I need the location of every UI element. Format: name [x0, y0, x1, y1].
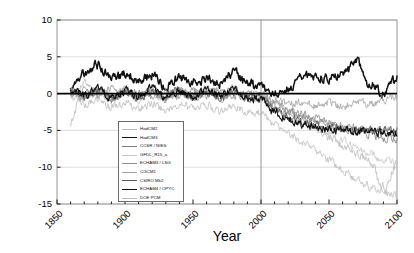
x-axis-title: Year: [57, 228, 397, 244]
legend-swatch: [122, 198, 137, 199]
legend-swatch: [122, 137, 137, 138]
legend-label: ECHAM3 / LSG: [140, 161, 171, 165]
y-tick-label: 5: [26, 51, 52, 62]
y-tick-label: -15: [26, 198, 52, 209]
y-tick-label: -10: [26, 161, 52, 172]
legend-label: HadCM2: [140, 127, 157, 131]
figure-atlantic-circulation: Change in Atlantic Circulation [106m3/s]…: [0, 0, 414, 253]
legend-swatch: [122, 155, 137, 156]
legend-label: CSIRO Mk2: [140, 179, 163, 183]
legend-item: ECHAM4 / OPYC: [121, 185, 181, 194]
legend-item: HadCM3: [121, 134, 181, 143]
legend-swatch: [122, 163, 137, 164]
legend-swatch: [122, 172, 137, 173]
y-tick-label: 10: [26, 14, 52, 25]
y-tick-label: -5: [26, 124, 52, 135]
legend-label: DOE PCM: [140, 196, 161, 200]
chart-legend: HadCM2HadCM3CCSR / NIESGFDL_R15_aECHAM3 …: [118, 121, 184, 202]
legend-swatch: [122, 146, 137, 147]
legend-swatch: [122, 189, 137, 190]
legend-label: HadCM3: [140, 136, 157, 140]
legend-label: ECHAM4 / OPYC: [140, 187, 174, 191]
legend-item: GFDL_R15_a: [121, 151, 181, 160]
legend-item: CSIRO Mk2: [121, 177, 181, 186]
legend-item: HadCM2: [121, 125, 181, 134]
legend-swatch: [122, 180, 137, 181]
legend-label: GFDL_R15_a: [140, 153, 167, 157]
legend-item: CCSR / NIES: [121, 142, 181, 151]
legend-item: DOE PCM: [121, 194, 181, 203]
legend-label: CCSR / NIES: [140, 144, 166, 148]
y-tick-label: 0: [26, 88, 52, 99]
legend-label: CGCM1: [140, 170, 156, 174]
legend-item: ECHAM3 / LSG: [121, 159, 181, 168]
legend-swatch: [122, 129, 137, 130]
legend-item: CGCM1: [121, 168, 181, 177]
